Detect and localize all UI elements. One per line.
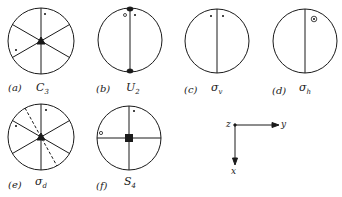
panel-f-label: (f) <box>96 181 108 191</box>
cross-icon <box>15 49 17 51</box>
cross-icon <box>45 109 47 111</box>
circled-cross-icon <box>311 16 317 22</box>
triangle-icon <box>37 133 45 140</box>
arrow-right-icon <box>272 123 279 128</box>
panel-f-stereogram <box>97 106 161 170</box>
axis-y-label: y <box>281 120 286 129</box>
panel-b-symbol: U2 <box>126 82 140 96</box>
panel-d-symbol: σh <box>299 82 311 96</box>
cross-icon <box>15 125 17 127</box>
panel-a-label: (a) <box>8 83 22 93</box>
cross-icon <box>134 14 136 16</box>
panel-d-stereogram <box>273 9 337 73</box>
panel-e-stereogram <box>8 104 74 170</box>
cross-icon <box>210 15 212 17</box>
panel-a-stereogram <box>8 8 74 74</box>
panel-c-stereogram <box>185 9 249 73</box>
circle-icon <box>99 131 102 134</box>
stereogram-figure <box>0 0 342 197</box>
panel-e-label: (e) <box>8 180 22 190</box>
panel-c-symbol: σv <box>211 82 222 96</box>
triangle-icon <box>37 37 45 44</box>
arrow-down-icon <box>233 158 238 165</box>
panel-e-symbol: σd <box>35 176 47 190</box>
panel-d-label: (d) <box>272 86 286 96</box>
axis-z-label: z <box>226 120 231 129</box>
coordinate-axes <box>233 123 280 166</box>
circle-icon <box>124 14 127 17</box>
square-icon <box>126 135 133 142</box>
cross-icon <box>222 15 224 17</box>
panel-b-label: (b) <box>96 84 110 94</box>
cross-icon <box>133 110 135 112</box>
axis-x-label: x <box>231 167 236 176</box>
panel-f-symbol: S4 <box>124 176 136 190</box>
panel-a-symbol: C3 <box>36 82 49 96</box>
cross-icon <box>44 13 46 15</box>
panel-b-stereogram <box>98 7 162 73</box>
panel-c-label: (c) <box>184 85 197 95</box>
ellipse-icon <box>127 7 133 11</box>
ellipse-icon <box>127 69 133 73</box>
